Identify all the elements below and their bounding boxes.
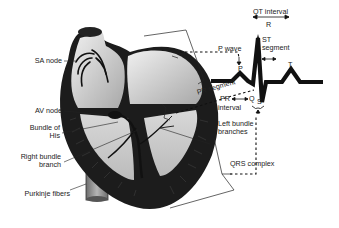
label-pr-interval-1: PR: [220, 95, 230, 103]
label-st-2: segment: [262, 44, 290, 52]
label-bundle-of-his-2: His: [10, 132, 60, 140]
label-p: P: [238, 65, 243, 73]
label-pr-interval-2: interval: [218, 104, 241, 112]
label-sa-node: SA node: [20, 57, 62, 65]
label-purkinje-fibers: Purkinje fibers: [0, 190, 70, 198]
conduction-diagram: SA node AV node Bundle of His Right bund…: [0, 0, 339, 228]
label-right-bundle-2: branch: [0, 161, 61, 169]
label-qt-interval: QT interval: [253, 8, 288, 16]
label-s: S: [257, 98, 262, 106]
label-q: Q: [249, 95, 255, 103]
label-av-node: AV node: [20, 107, 62, 115]
label-qrs-complex: QRS complex: [230, 160, 274, 168]
label-t: T: [288, 61, 292, 69]
label-p-wave: P wave: [218, 45, 241, 53]
label-r: R: [266, 21, 271, 29]
label-left-bundle-2: branches: [218, 128, 248, 136]
